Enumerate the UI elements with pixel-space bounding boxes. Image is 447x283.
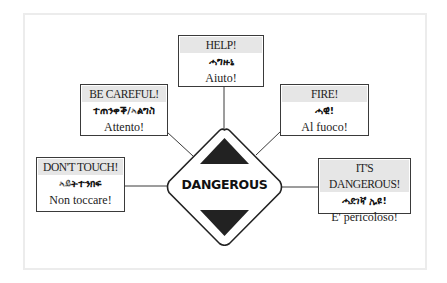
node-its-dangerous: IT'S DANGEROUS! ሓደገኛ ኢዩ! E' pericoloso! [318,158,411,214]
danger-diamond-sign: DANGEROUS [166,128,283,246]
node-amharic-text: ኣይትተንክፍ [37,175,124,192]
node-english-text: DON'T TOUCH! [38,159,123,175]
node-italian-text: Aiuto! [179,70,263,86]
node-amharic-text: ተጠንቀቕ/ኣልግስ [81,102,167,119]
node-amharic-text: ሓዊ! [281,102,368,119]
node-help: HELP! ሓግዙኒ Aiuto! [178,35,264,87]
node-english-text: IT'S DANGEROUS! [320,160,409,192]
node-dont-touch: DON'T TOUCH! ኣይትተንክፍ Non toccare! [36,157,125,212]
node-english-text: HELP! [180,37,262,53]
node-italian-text: E' pericoloso! [319,209,410,225]
node-be-careful: BE CAREFUL! ተጠንቀቕ/ኣልግስ Attento! [80,84,168,136]
node-english-text: BE CAREFUL! [82,86,166,102]
node-italian-text: Attento! [81,119,167,135]
center-label: DANGEROUS [166,177,283,192]
node-italian-text: Non toccare! [37,192,124,208]
node-italian-text: Al fuoco! [281,119,368,135]
node-amharic-text: ሓግዙኒ [179,53,263,70]
node-fire: FIRE! ሓዊ! Al fuoco! [280,84,369,136]
node-amharic-text: ሓደገኛ ኢዩ! [319,192,410,209]
node-english-text: FIRE! [282,86,367,102]
